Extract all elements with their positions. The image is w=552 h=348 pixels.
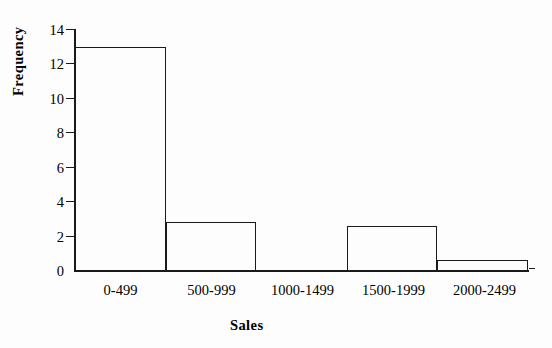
y-tick-mark-12 xyxy=(66,63,74,64)
bar-0-499 xyxy=(75,47,166,273)
x-category-label-0: 0-499 xyxy=(75,283,166,298)
y-tick-mark-14 xyxy=(66,29,74,30)
y-tick-label-6: 6 xyxy=(24,161,64,176)
bar-1500-1999 xyxy=(347,226,438,272)
y-tick-mark-2 xyxy=(66,236,74,237)
x-category-label-2: 1000-1499 xyxy=(257,283,348,298)
bar-2000-2499 xyxy=(437,260,528,272)
y-tick-mark-10 xyxy=(66,98,74,99)
x-category-label-4: 2000-2499 xyxy=(439,283,530,298)
x-axis-end-tick xyxy=(529,268,535,269)
y-tick-mark-6 xyxy=(66,167,74,168)
y-tick-mark-4 xyxy=(66,201,74,202)
x-category-label-1: 500-999 xyxy=(166,283,257,298)
y-tick-mark-8 xyxy=(66,132,74,133)
y-tick-label-4: 4 xyxy=(24,195,64,210)
y-tick-label-12: 12 xyxy=(24,57,64,72)
bar-500-999 xyxy=(166,222,257,272)
y-tick-label-10: 10 xyxy=(24,92,64,107)
y-tick-label-8: 8 xyxy=(24,126,64,141)
histogram-chart: 14 12 10 8 6 4 2 0 0-499 500-999 1000-14… xyxy=(0,0,552,348)
y-tick-label-2: 2 xyxy=(24,230,64,245)
y-axis-title: Frequency xyxy=(10,68,27,96)
x-axis-title: Sales xyxy=(230,317,263,334)
y-tick-label-14: 14 xyxy=(24,23,64,38)
x-category-label-3: 1500-1999 xyxy=(348,283,439,298)
y-tick-label-0: 0 xyxy=(24,264,64,279)
